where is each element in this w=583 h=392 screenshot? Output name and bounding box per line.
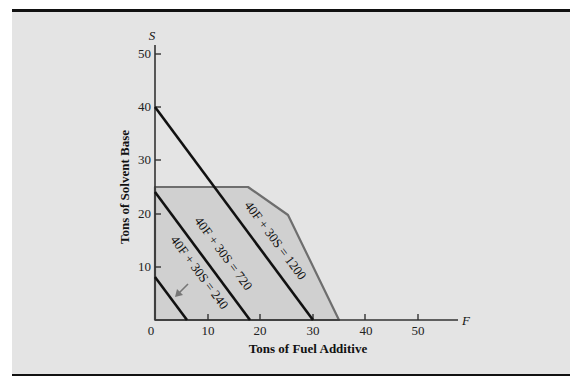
x-tick-label-20: 20 xyxy=(254,323,267,338)
x-tick-label-40: 40 xyxy=(360,323,373,338)
y-tick-label-10: 10 xyxy=(138,259,151,274)
x-tick-label-10: 10 xyxy=(202,323,215,338)
x-variable-label: F xyxy=(461,313,471,328)
y-axis-title: Tons of Solvent Base xyxy=(117,130,132,244)
y-tick-label-30: 30 xyxy=(138,152,151,167)
y-variable-label: S xyxy=(149,28,156,43)
x-tick-label-30: 30 xyxy=(307,323,320,338)
x-axis-title: Tons of Fuel Additive xyxy=(249,341,368,356)
y-tick-label-50: 50 xyxy=(138,46,151,61)
x-tick-label-50: 50 xyxy=(412,323,425,338)
x-tick-label-0: 0 xyxy=(148,323,155,338)
y-tick-label-40: 40 xyxy=(138,99,151,114)
y-tick-label-20: 20 xyxy=(138,206,151,221)
chart-svg: 10 20 30 40 50 0 10 20 30 40 50 S F Tons… xyxy=(0,0,583,392)
